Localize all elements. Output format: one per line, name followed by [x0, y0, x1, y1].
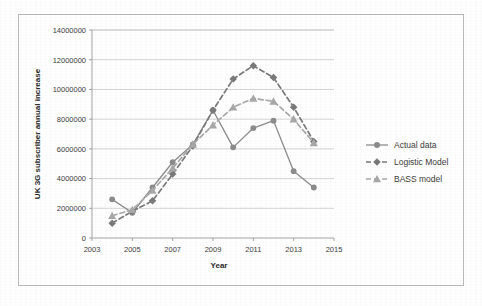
- x-tick-label: 2005: [124, 245, 141, 254]
- data-series: [108, 62, 318, 227]
- x-tick-label: 2007: [164, 245, 181, 254]
- chart-canvas: 0200000040000006000000800000010000000120…: [0, 0, 482, 306]
- data-point-triangle: [209, 121, 217, 128]
- y-tick-label: 6000000: [57, 145, 86, 154]
- y-tick-label: 10000000: [53, 85, 86, 94]
- x-axis-tick-labels: 2003200520072009201120132015: [84, 245, 343, 254]
- data-point-circle: [374, 142, 380, 148]
- y-tick-label: 12000000: [53, 56, 86, 65]
- data-point-circle: [271, 118, 277, 124]
- x-tick-label: 2009: [205, 245, 222, 254]
- axes: [89, 30, 334, 241]
- data-point-circle: [250, 125, 256, 131]
- data-point-circle: [291, 168, 297, 174]
- gridlines: [92, 30, 334, 208]
- x-tick-label: 2013: [285, 245, 302, 254]
- data-point-circle: [230, 144, 236, 150]
- x-tick-label: 2003: [84, 245, 101, 254]
- legend-label: Actual data: [394, 140, 437, 150]
- y-axis-title: UK 3G subscriber annual increase: [33, 68, 42, 199]
- x-tick-label: 2015: [326, 245, 343, 254]
- data-point-diamond: [209, 106, 217, 114]
- y-tick-label: 0: [82, 234, 86, 243]
- legend-item-bass-model[interactable]: BASS model: [366, 174, 442, 184]
- data-point-circle: [311, 185, 317, 191]
- chart-legend: Actual dataLogistic ModelBASS model: [366, 140, 448, 184]
- data-point-diamond: [373, 158, 381, 166]
- legend-item-actual-data[interactable]: Actual data: [366, 140, 437, 150]
- series-line: [112, 98, 314, 215]
- y-tick-label: 14000000: [53, 26, 86, 35]
- y-tick-label: 8000000: [57, 115, 86, 124]
- data-point-diamond: [108, 219, 116, 227]
- legend-item-logistic-model[interactable]: Logistic Model: [366, 157, 448, 167]
- y-tick-label: 2000000: [57, 204, 86, 213]
- y-tick-label: 4000000: [57, 174, 86, 183]
- data-point-triangle: [249, 94, 257, 101]
- x-axis-title: Year: [211, 261, 228, 270]
- legend-label: BASS model: [394, 174, 442, 184]
- x-tick-label: 2011: [245, 245, 261, 254]
- data-point-circle: [109, 196, 115, 202]
- legend-label: Logistic Model: [394, 157, 448, 167]
- y-axis-tick-labels: 0200000040000006000000800000010000000120…: [53, 26, 86, 243]
